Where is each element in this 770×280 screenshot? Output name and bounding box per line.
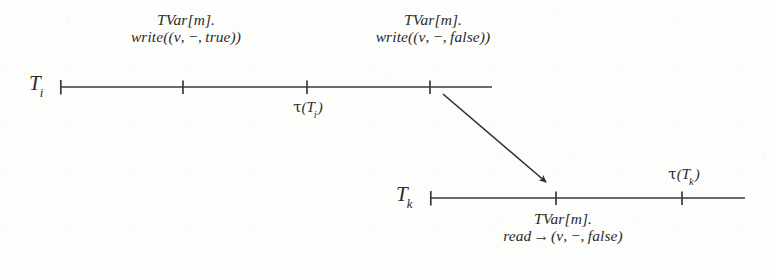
op-label-write-false: TVar[m]. write((v, −, false)) [376,11,491,46]
op-label-write-false-line1: TVar[m]. [376,11,491,28]
op-label-write-true-line1: TVar[m]. [131,11,241,28]
read-false-tail: ) [618,227,623,244]
op-label-write-false-line2: write((v, −, false)) [376,28,491,45]
tau-ti-sub: i [314,109,317,120]
write-false-flag: false [450,28,480,45]
lane-label-ti-base: T [29,71,41,95]
write-true-head: write(( [131,28,174,45]
timeline-axis-tk [430,191,745,206]
op-label-write-true-line2: write((v, −, true)) [131,28,241,45]
op-label-read-false: TVar[m]. read→(v, −, false) [503,210,623,245]
timeline-axis-ti [60,80,492,95]
lane-label-tk: Tk [396,183,413,210]
write-false-value: v [419,28,426,45]
lane-label-tk-base: T [396,182,408,206]
read-false-head: read [503,227,531,244]
lane-label-tk-sub: k [407,196,413,211]
write-true-flag: true [205,28,230,45]
op-label-write-true: TVar[m]. write((v, −, true)) [131,11,241,46]
write-true-separator: , −, [181,28,205,45]
write-true-value: v [174,28,181,45]
write-false-tail: )) [480,28,491,45]
commit-timestamp-ti: τ(Ti) [293,99,323,119]
read-false-flag: false [588,227,618,244]
write-false-separator: , −, [426,28,450,45]
op-label-read-false-line2: read→(v, −, false) [503,227,623,244]
tau-ti-close: ) [318,99,323,115]
read-false-separator: , −, [563,227,587,244]
write-false-head: write(( [376,28,419,45]
commit-timestamp-tk: τ(Tk) [668,166,699,186]
right-arrow-icon: → [531,227,551,244]
lane-label-ti-sub: i [40,85,44,100]
write-true-tail: )) [231,28,242,45]
tau-tk-sub: k [689,176,694,187]
op-label-read-false-line1: TVar[m]. [503,210,623,227]
dependency-arrow [443,94,546,182]
tau-tk-close: ) [695,166,700,182]
lane-label-ti: Ti [29,72,44,99]
timeline-figure: Ti Tk TVar[m]. write((v, −, true)) TVar[… [0,0,770,280]
